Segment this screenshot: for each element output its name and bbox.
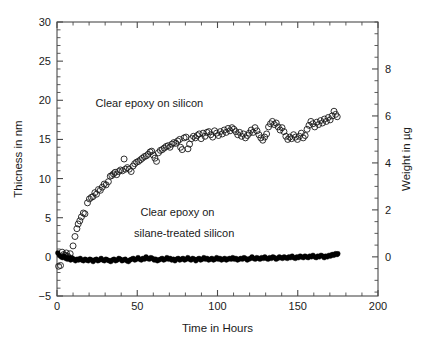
data-point-filled	[335, 251, 340, 256]
x-tick-label: 0	[54, 300, 60, 312]
y2-tick-label: 8	[385, 63, 391, 75]
y2-tick-label: 2	[385, 204, 391, 216]
annotation-clear-epoxy-on-silane-line1: Clear epoxy on	[140, 206, 214, 218]
y-tick-label: 10	[39, 173, 51, 185]
y-tick-label: 30	[39, 16, 51, 28]
data-point-open	[159, 147, 165, 153]
data-point-open	[72, 234, 78, 240]
series-clear-epoxy-on-silane-treated-silicon	[55, 251, 340, 264]
secondary-y-axis-tick-labels: 02468	[385, 63, 391, 263]
x-tick-label: 150	[289, 300, 307, 312]
y-tick-label: 25	[39, 55, 51, 67]
y-axis-title: Thicness in nm	[12, 120, 24, 197]
y-tick-label: −5	[38, 290, 51, 302]
series-clear-epoxy-on-silicon	[56, 108, 341, 269]
secondary-y-axis-ticks	[372, 22, 378, 292]
annotation-clear-epoxy-on-silane-line2: silane-treated silicon	[134, 227, 234, 239]
x-tick-label: 50	[131, 300, 143, 312]
annotation-clear-epoxy-on-silicon: Clear epoxy on silicon	[96, 97, 204, 109]
y2-tick-label: 0	[385, 251, 391, 263]
data-point-open	[58, 262, 64, 268]
data-point-open	[70, 243, 76, 249]
plot-annotations: Clear epoxy on siliconClear epoxy onsila…	[96, 97, 235, 239]
y-axis-tick-labels: −5051015202530	[38, 16, 51, 302]
y2-tick-label: 4	[385, 157, 391, 169]
figure-container: 050100150200 −5051015202530 02468 Clear …	[0, 0, 422, 345]
y-tick-label: 15	[39, 133, 51, 145]
x-axis-title: Time in Hours	[182, 322, 253, 334]
thickness-vs-time-scatter-chart: 050100150200 −5051015202530 02468 Clear …	[0, 0, 422, 345]
y-tick-label: 20	[39, 94, 51, 106]
y2-tick-label: 6	[385, 110, 391, 122]
data-point-open	[121, 156, 127, 162]
data-point-open	[124, 165, 130, 171]
x-tick-label: 100	[208, 300, 226, 312]
x-tick-label: 200	[369, 300, 387, 312]
y-tick-label: 0	[45, 251, 51, 263]
secondary-y-axis-title: Weight in µg	[400, 127, 412, 191]
x-axis-tick-labels: 050100150200	[54, 300, 387, 312]
y-tick-label: 5	[45, 212, 51, 224]
